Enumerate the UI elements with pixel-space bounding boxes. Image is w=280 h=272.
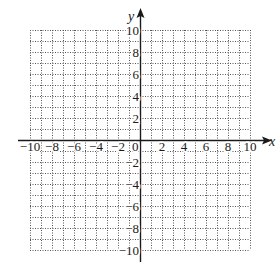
x-tick-label: −2 (111, 139, 125, 154)
y-tick-label: −8 (125, 221, 139, 236)
x-tick-label: −6 (67, 139, 81, 154)
y-tick-label: 8 (133, 45, 140, 60)
y-tick-label: 2 (133, 111, 140, 126)
x-tick-label: −4 (89, 139, 103, 154)
axes (18, 8, 272, 262)
y-tick-label: 10 (126, 23, 139, 38)
y-tick-label: 4 (133, 89, 140, 104)
x-tick-label: 6 (203, 139, 210, 154)
x-tick-label: 8 (225, 139, 232, 154)
y-tick-label: −6 (125, 199, 139, 214)
x-tick-label: −10 (20, 139, 40, 154)
x-tick-label: 4 (181, 139, 188, 154)
coordinate-plane: −10−8−6−4−20246810 108642−2−4−6−8−10 x y (0, 0, 280, 272)
y-tick-label: 6 (133, 67, 140, 82)
y-tick-label: −4 (125, 177, 139, 192)
x-tick-label: −8 (45, 139, 59, 154)
x-tick-label: 2 (159, 139, 166, 154)
x-tick-label: 10 (244, 139, 257, 154)
x-tick-label: 0 (132, 139, 139, 154)
x-axis-label: x (268, 134, 276, 149)
y-tick-label: −2 (125, 155, 139, 170)
y-axis-label: y (126, 9, 135, 24)
y-tick-label: −10 (119, 243, 139, 258)
